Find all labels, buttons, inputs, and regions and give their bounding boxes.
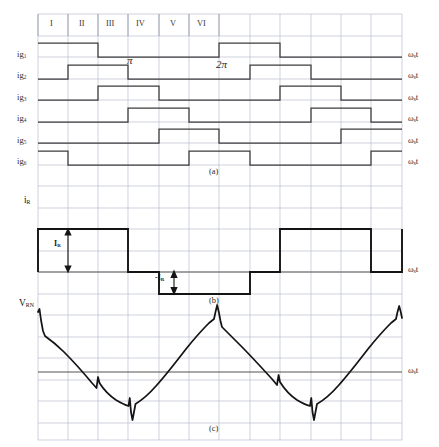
annotation-current-positive: IR [54, 240, 61, 249]
axis-label-ig1: ωst [408, 50, 418, 60]
caption-panel-c: (c) [209, 425, 218, 433]
gate-waveform-ig5 [38, 129, 402, 143]
sector-label-1: I [50, 20, 53, 28]
current-amplitude-arrow-positive [65, 229, 71, 272]
current-amplitude-arrow-negative [171, 271, 177, 294]
waveform-figure: I II III IV V VI ig1 ig2 ig3 ig4 ig5 ig6… [0, 0, 439, 447]
annotation-pi: π [127, 55, 133, 66]
gate-label-ig2: ig2 [17, 71, 26, 81]
gate-waveform-ig6 [38, 151, 402, 165]
gate-label-ig6: ig6 [17, 157, 26, 167]
axis-label-ig6: ωst [408, 157, 418, 167]
sector-label-2: II [79, 20, 85, 28]
gate-label-ig5: ig5 [17, 136, 26, 146]
sector-label-6: VI [197, 20, 206, 28]
axis-label-voltage: ωst [408, 366, 418, 376]
sector-label-4: IV [136, 20, 145, 28]
sector-label-5: V [170, 20, 176, 28]
gate-label-ig1: ig1 [17, 50, 26, 60]
gate-waveform-ig3 [38, 86, 402, 100]
gate-label-ig3: ig3 [17, 93, 26, 103]
sector-divider-row [38, 14, 219, 36]
axis-label-ig3: ωst [408, 93, 418, 103]
annotation-current-negative: -IR [155, 274, 164, 283]
axis-label-ig2: ωst [408, 71, 418, 81]
annotation-two-pi: 2π [216, 59, 227, 70]
gate-waveform-ig1 [38, 43, 402, 57]
caption-panel-b: (b) [209, 297, 219, 305]
signal-label-vrn: VRN [19, 299, 34, 309]
axis-label-ig4: ωst [408, 114, 418, 124]
phase-current-waveform [38, 229, 402, 294]
caption-panel-a: (a) [209, 168, 218, 176]
axis-label-ig5: ωst [408, 136, 418, 146]
axis-label-current: ωst [408, 265, 418, 275]
sector-label-3: III [106, 20, 114, 28]
gate-label-ig4: ig4 [17, 114, 26, 124]
phase-voltage-waveform [38, 305, 402, 420]
signal-label-ir: iR [24, 196, 31, 206]
gate-waveform-ig4 [38, 108, 402, 122]
